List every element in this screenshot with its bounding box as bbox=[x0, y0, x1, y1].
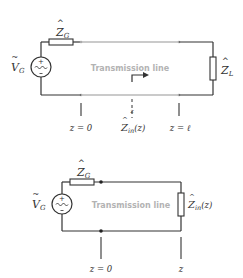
svg-text:~: ~ bbox=[12, 53, 19, 62]
circuit-diagram: + VG ~ ZG ^ ZL ^ Transmission line z z =… bbox=[0, 0, 243, 278]
top-load-impedance-label: ZL bbox=[220, 64, 234, 78]
bottom-circuit: + bbox=[52, 179, 184, 259]
ac-source-icon: + bbox=[31, 57, 51, 77]
svg-text:+: + bbox=[38, 58, 44, 66]
top-position-zl-label: z = ℓ bbox=[169, 123, 191, 133]
top-circuit: + bbox=[31, 39, 216, 118]
bottom-generator-impedance-label: ZG bbox=[76, 166, 91, 180]
bottom-ac-source-icon: + bbox=[52, 194, 72, 214]
direction-arrow-icon bbox=[132, 72, 149, 82]
svg-text:^: ^ bbox=[222, 57, 229, 66]
top-transmission-line-label: Transmission line bbox=[91, 64, 170, 73]
svg-text:+: + bbox=[59, 195, 65, 203]
svg-text:^: ^ bbox=[57, 19, 64, 28]
input-impedance-resistor bbox=[178, 193, 184, 216]
load-impedance-resistor bbox=[210, 57, 216, 80]
svg-text:~: ~ bbox=[33, 190, 40, 199]
top-source-label: VG bbox=[11, 61, 25, 75]
bottom-position-z-label: z bbox=[178, 264, 184, 274]
svg-text:^: ^ bbox=[78, 159, 85, 168]
svg-text:^: ^ bbox=[122, 116, 128, 124]
svg-text:^: ^ bbox=[189, 193, 195, 201]
top-generator-impedance-label: ZG bbox=[55, 26, 70, 40]
top-position-z0-label: z = 0 bbox=[69, 123, 93, 133]
generator-impedance-resistor bbox=[49, 39, 73, 45]
bottom-generator-impedance-resistor bbox=[70, 179, 94, 185]
bottom-transmission-line-label: Transmission line bbox=[92, 201, 171, 210]
top-z-mark-label: z bbox=[129, 107, 134, 114]
bottom-position-z0-label: z = 0 bbox=[89, 264, 113, 274]
bottom-source-label: VG bbox=[32, 198, 46, 212]
